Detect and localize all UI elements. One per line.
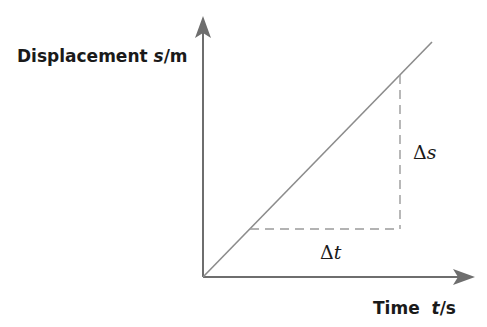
delta-s-var: s bbox=[427, 141, 437, 163]
x-axis bbox=[203, 269, 475, 285]
y-axis-label-prefix: Displacement bbox=[17, 46, 154, 66]
delta-s-label: Δs bbox=[413, 141, 437, 163]
x-axis-label-unit: /s bbox=[440, 298, 456, 318]
x-axis-label-prefix: Time bbox=[373, 298, 432, 318]
delta-t-symbol: Δ bbox=[320, 241, 334, 263]
y-axis bbox=[195, 16, 211, 277]
y-axis-label: Displacement s/m bbox=[17, 46, 188, 66]
delta-s-symbol: Δ bbox=[413, 141, 427, 163]
y-axis-label-var: s bbox=[154, 46, 164, 66]
y-axis-label-unit: /m bbox=[164, 46, 188, 66]
x-axis-label-var: t bbox=[432, 298, 440, 318]
delta-t-label: Δt bbox=[320, 241, 341, 263]
x-axis-label: Time t/s bbox=[373, 298, 456, 318]
displacement-line bbox=[203, 42, 432, 277]
delta-t-var: t bbox=[334, 241, 342, 263]
